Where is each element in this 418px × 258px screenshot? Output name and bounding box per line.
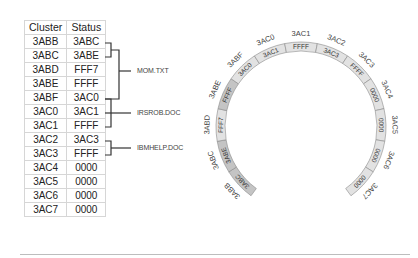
ring-cluster-label: 3ABE	[207, 79, 223, 100]
ring-cluster-label: 3AC4	[379, 79, 395, 100]
ring-segment-status: 0000	[378, 118, 385, 133]
ring-cluster-label: 3AC5	[390, 115, 399, 134]
ring-cluster-label: 3AC1	[292, 29, 311, 38]
ring-cluster-label: 3ABD	[202, 114, 211, 134]
ring-cluster-label: 3ABC	[205, 149, 221, 171]
disk-cluster-ring: 3ABC3ABB3ABE3ABCFFF73ABDFFFF3ABE3AC03ABF…	[0, 0, 418, 258]
ring-cluster-label: 3AC6	[381, 150, 396, 171]
ring-cluster-label: 3AC0	[255, 32, 276, 47]
ring-segment-status: FFF7	[217, 117, 224, 133]
ring-segment-status: FFFF	[293, 43, 309, 50]
divider-line	[20, 254, 410, 255]
ring-cluster-label: 3AC2	[326, 32, 347, 47]
